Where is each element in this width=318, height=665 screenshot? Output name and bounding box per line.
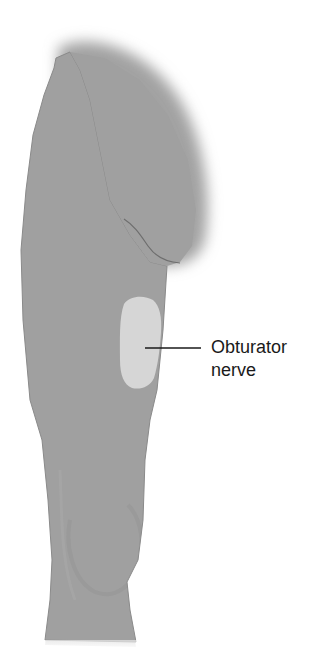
obturator-nerve-label: Obturator nerve <box>211 336 287 382</box>
leg-diagram: Obturator nerve <box>0 0 318 665</box>
label-line-2: nerve <box>211 359 287 382</box>
label-line-1: Obturator <box>211 336 287 359</box>
leg-illustration <box>0 0 318 665</box>
leg-silhouette <box>21 52 196 654</box>
